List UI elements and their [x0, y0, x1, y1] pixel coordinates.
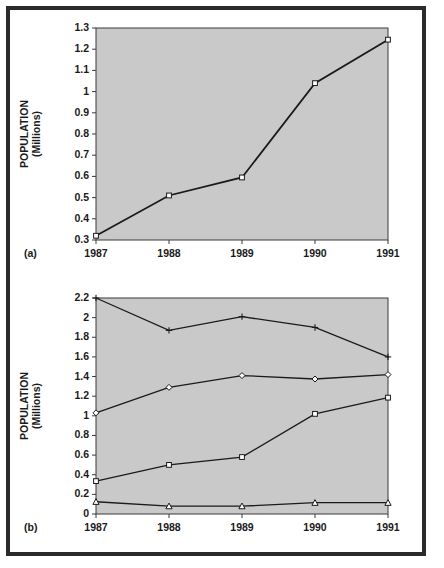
plot-background [96, 28, 388, 240]
chart-svg-a [10, 18, 422, 276]
data-point-square-marker [167, 193, 172, 198]
chart-panel-b: 00.20.40.60.811.21.41.61.822.21987198819… [10, 288, 422, 550]
figure-root: 0.30.40.50.60.70.80.911.11.21.3198719881… [0, 0, 444, 568]
data-point-square-marker [94, 233, 99, 238]
data-point-square-marker [94, 479, 99, 484]
data-point-square-marker [240, 455, 245, 460]
y-axis-title: POPULATION(Millions) [18, 28, 42, 240]
plot-area-b: 00.20.40.60.811.21.41.61.822.21987198819… [10, 288, 422, 550]
plot-background [96, 298, 388, 514]
figure-border: 0.30.40.50.60.70.80.911.11.21.3198719881… [6, 6, 426, 556]
data-point-square-marker [313, 411, 318, 416]
panel-label-b: (b) [24, 521, 37, 533]
data-point-square-marker [240, 175, 245, 180]
y-axis-title: POPULATION(Millions) [18, 298, 42, 514]
plot-area-a: 0.30.40.50.60.70.80.911.11.21.3198719881… [10, 18, 422, 276]
data-point-square-marker [313, 81, 318, 86]
data-point-square-marker [386, 37, 391, 42]
y-axis-title-line1: POPULATION [18, 28, 30, 240]
data-point-square-marker [167, 463, 172, 468]
y-axis-title-line2: (Millions) [30, 298, 42, 514]
chart-panel-a: 0.30.40.50.60.70.80.911.11.21.3198719881… [10, 18, 422, 276]
panel-label-a: (a) [24, 247, 37, 259]
y-axis-title-line1: POPULATION [18, 298, 30, 514]
chart-svg-b [10, 288, 422, 550]
y-axis-title-line2: (Millions) [30, 28, 42, 240]
data-point-square-marker [386, 395, 391, 400]
